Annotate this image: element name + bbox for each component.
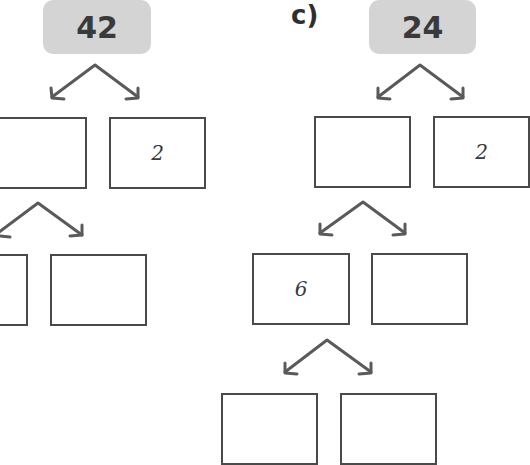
factor-box-2[interactable]: 2 xyxy=(433,116,530,188)
root-number-24: 24 xyxy=(369,0,476,54)
root-number-42: 42 xyxy=(43,0,151,54)
factor-box-2[interactable]: 2 xyxy=(109,117,206,189)
factor-box-empty[interactable] xyxy=(0,254,28,326)
factor-box-empty[interactable] xyxy=(50,254,147,326)
factor-box-empty[interactable] xyxy=(221,393,318,465)
factor-box-empty[interactable] xyxy=(314,116,411,188)
factor-box-empty[interactable] xyxy=(0,117,87,189)
factor-box-empty[interactable] xyxy=(340,393,437,465)
factor-box-empty[interactable] xyxy=(371,253,468,325)
factor-box-6[interactable]: 6 xyxy=(252,253,350,325)
problem-label-c: c) xyxy=(291,0,318,30)
